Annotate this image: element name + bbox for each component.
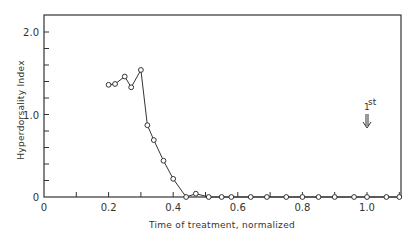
data-point [384, 195, 389, 200]
axis-ticks: 00.20.40.60.81.001.02.0 [23, 27, 399, 213]
data-point [332, 195, 337, 200]
x-tick-label: 1.0 [359, 202, 375, 213]
data-point [219, 195, 224, 200]
x-axis-label: Time of treatment, normalized [148, 220, 295, 230]
data-point [184, 195, 189, 200]
data-point [193, 191, 198, 196]
annotation-first: 1st [363, 97, 377, 128]
data-point [122, 74, 127, 79]
data-series [106, 68, 402, 200]
series-line [109, 70, 400, 197]
data-point [129, 85, 134, 90]
annotation-superscript: st [368, 97, 377, 107]
data-point [171, 176, 176, 181]
y-tick-label: 0 [33, 192, 39, 203]
data-point [139, 68, 144, 73]
data-point [316, 195, 321, 200]
x-tick-label: 0.2 [101, 202, 117, 213]
data-point [161, 158, 166, 163]
y-tick-label: 2.0 [23, 27, 39, 38]
plot-frame [44, 15, 401, 197]
x-tick-label: 0.8 [294, 202, 310, 213]
data-point [106, 82, 111, 87]
data-point [300, 195, 305, 200]
data-point [365, 195, 370, 200]
y-axis-label: Hyperdorsality Index [16, 60, 26, 160]
data-point [352, 195, 357, 200]
x-tick-label: 0 [41, 202, 47, 213]
x-tick-label: 0.6 [230, 202, 246, 213]
data-point [229, 195, 234, 200]
data-point [113, 82, 118, 87]
x-tick-label: 0.4 [165, 202, 181, 213]
data-point [397, 195, 402, 200]
data-point [284, 195, 289, 200]
data-point [151, 138, 156, 143]
data-point [206, 195, 211, 200]
data-point [248, 195, 253, 200]
data-point [145, 123, 150, 128]
plot-border [44, 15, 401, 197]
data-point [264, 195, 269, 200]
chart: 00.20.40.60.81.001.02.0 1st Time of trea… [0, 0, 414, 242]
